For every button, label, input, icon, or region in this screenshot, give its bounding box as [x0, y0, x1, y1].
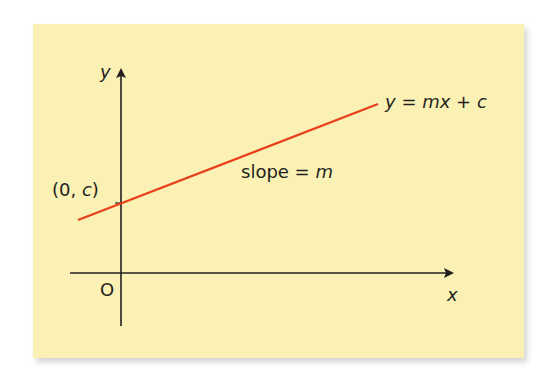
eq-x: x	[440, 91, 451, 112]
slope-m: m	[315, 161, 333, 182]
x-axis-label: x	[447, 286, 458, 304]
line-equation-label: y = mx + c	[385, 93, 487, 111]
eq-y: y	[385, 91, 396, 112]
intercept-label: (0, c)	[52, 181, 99, 199]
eq-c: c	[477, 91, 487, 112]
line-y-mx-c	[78, 104, 378, 220]
intercept-c: c	[82, 179, 92, 200]
slope-label: slope = m	[241, 163, 333, 181]
intercept-close: )	[92, 179, 99, 200]
y-axis-label: y	[100, 63, 111, 81]
eq-equals: =	[396, 91, 423, 112]
eq-m: m	[422, 91, 440, 112]
eq-plus: +	[450, 91, 477, 112]
intercept-open: (0,	[52, 179, 82, 200]
origin-label: O	[100, 281, 114, 299]
slope-text: slope =	[241, 161, 315, 182]
